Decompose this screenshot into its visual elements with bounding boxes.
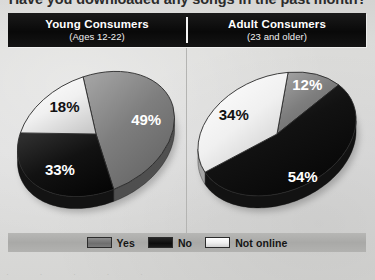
charts-area: 49%33%18% 12%54%34% (8, 48, 366, 233)
footer-strip: · · · · · (6, 269, 157, 279)
pie-slice-label-not-online: 34% (219, 106, 249, 123)
column-header-adult-title: Adult Consumers (228, 18, 326, 31)
legend-label-no: No (178, 237, 192, 249)
chart-screenshot: Have you downloaded any songs in the pas… (0, 0, 375, 280)
legend-label-yes: Yes (117, 237, 135, 249)
column-header-bar: Young Consumers (Ages 12-22) Adult Consu… (8, 13, 366, 47)
question-title-clip: Have you downloaded any songs in the pas… (0, 0, 375, 11)
legend-item-no: No (148, 237, 192, 249)
pie-slice-label-yes: 49% (131, 111, 161, 128)
footer-clip: · · · · · (0, 268, 375, 280)
legend-item-yes: Yes (87, 237, 135, 249)
column-header-adult: Adult Consumers (23 and older) (188, 13, 366, 47)
yes-swatch (87, 237, 112, 248)
not-online-swatch (205, 237, 230, 248)
pie-slice-label-not-online: 18% (50, 98, 80, 115)
column-header-young: Young Consumers (Ages 12-22) (8, 13, 186, 47)
panel-divider-line (186, 48, 187, 233)
pie-slice-label-no: 33% (45, 161, 75, 178)
legend-item-not-online: Not online (205, 237, 287, 249)
question-title: Have you downloaded any songs in the pas… (9, 0, 367, 7)
legend: Yes No Not online (8, 233, 366, 252)
pie-chart-adult-consumers: 12%54%34% (187, 48, 366, 233)
column-header-adult-subtitle: (23 and older) (247, 31, 307, 43)
pie-chart-young-consumers: 49%33%18% (8, 48, 187, 233)
column-header-young-title: Young Consumers (45, 18, 149, 31)
legend-label-not-online: Not online (235, 237, 287, 249)
pie-slice-label-yes: 12% (292, 76, 322, 93)
no-swatch (148, 237, 173, 248)
column-header-young-subtitle: (Ages 12-22) (69, 31, 125, 43)
pie-slice-label-no: 54% (288, 168, 318, 185)
